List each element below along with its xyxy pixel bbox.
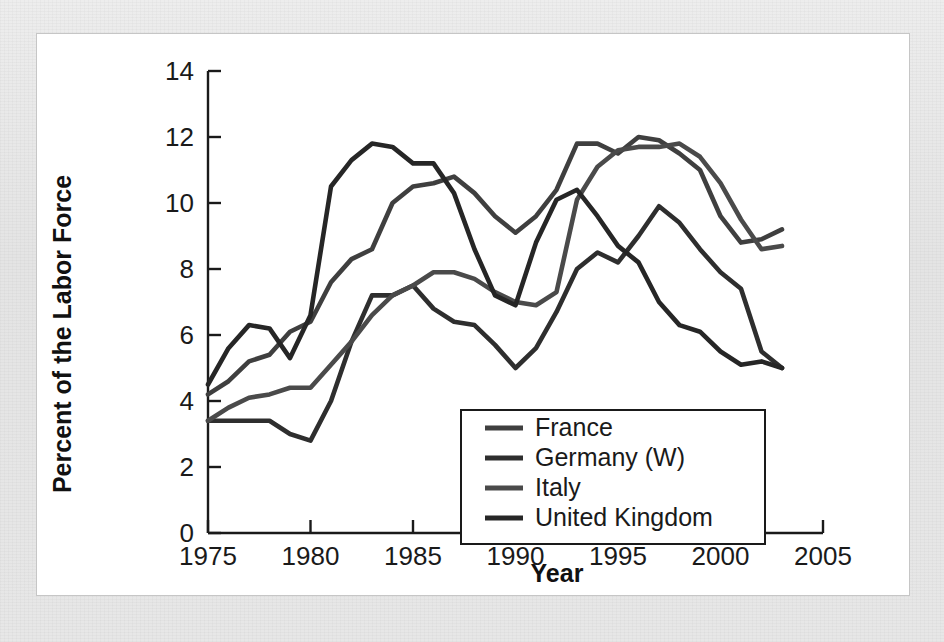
legend-label-france: France: [535, 413, 613, 441]
scanned-page-background: 02468101214 1975198019851990199520002005…: [0, 0, 944, 642]
x-axis-tick-labels: 1975198019851990199520002005: [179, 541, 852, 571]
y-axis-tick-labels: 02468101214: [165, 56, 194, 548]
y-axis-tick-label: 14: [165, 56, 194, 86]
y-axis-tick-label: 4: [180, 386, 194, 416]
y-axis-tick-label: 12: [165, 122, 194, 152]
y-axis-title: Percent of the Labor Force: [48, 175, 76, 493]
series-line-france: [208, 137, 782, 394]
series-line-italy: [208, 144, 782, 421]
legend-label-italy: Italy: [535, 473, 581, 501]
x-axis-tick-label: 2000: [692, 541, 750, 571]
x-axis-tick-label: 2005: [794, 541, 852, 571]
y-axis-tick-label: 2: [180, 452, 194, 482]
y-axis-tick-label: 6: [180, 320, 194, 350]
y-axis-tick-label: 10: [165, 188, 194, 218]
figure-card: 02468101214 1975198019851990199520002005…: [36, 33, 910, 596]
x-axis-tick-label: 1980: [282, 541, 340, 571]
legend-label-germany-w: Germany (W): [535, 443, 685, 471]
legend-label-united-kingdom: United Kingdom: [535, 503, 713, 531]
x-axis-tick-label: 1975: [179, 541, 237, 571]
chart-legend: FranceGermany (W)ItalyUnited Kingdom: [461, 410, 765, 544]
line-chart: 02468101214 1975198019851990199520002005…: [37, 34, 909, 595]
chart-series-group: [208, 137, 782, 441]
series-line-germany-w: [208, 206, 782, 440]
y-axis-ticks: [208, 71, 221, 533]
x-axis-title: Year: [531, 559, 584, 587]
y-axis-tick-label: 8: [180, 254, 194, 284]
x-axis-tick-label: 1985: [384, 541, 442, 571]
x-axis-tick-label: 1995: [589, 541, 647, 571]
